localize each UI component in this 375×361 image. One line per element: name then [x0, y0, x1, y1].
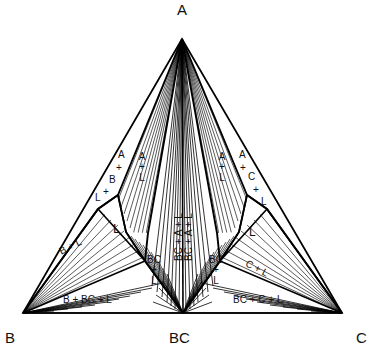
- region-label-bc-c-l: BC + C + L: [233, 295, 282, 305]
- region-label-a-b-l-b: B: [109, 175, 116, 185]
- region-label-a-b-l-a: A: [118, 150, 125, 160]
- region-label-a-b-l-l: L: [95, 193, 101, 203]
- vertex-label-bc: BC: [169, 330, 190, 345]
- region-label-liquid-right: L: [249, 226, 256, 238]
- region-label-a-l-right: A+L: [215, 152, 229, 183]
- vertex-label-b: B: [5, 330, 15, 345]
- vertex-label-a: A: [177, 2, 187, 17]
- region-label-a-l-left: A+L: [135, 152, 149, 183]
- region-label-a-c-l-p2: +: [253, 185, 259, 195]
- region-label-bc-a-l-right: BC + A + L: [184, 200, 194, 274]
- region-label-a-c-l-l: L: [261, 197, 267, 207]
- vertex-label-c: C: [356, 330, 367, 345]
- ternary-phase-diagram: A B BC C A + B + L A+L A+L A + C + L BC …: [0, 0, 375, 361]
- region-label-a-b-l-p1: +: [116, 163, 122, 173]
- region-label-liquid-left: L: [113, 222, 120, 235]
- diagram-canvas: [0, 0, 375, 361]
- region-label-a-c-l-a: A: [239, 150, 246, 160]
- region-label-bc-l-right: BC+L: [207, 255, 225, 286]
- region-label-a-c-l-p1: +: [240, 163, 246, 173]
- region-label-a-c-l-c: C: [248, 172, 255, 182]
- region-label-bc-l-left: BC+L: [145, 255, 163, 286]
- region-label-a-b-l-p2: +: [103, 187, 109, 197]
- region-label-b-bc-l: B + BC + L: [63, 295, 112, 305]
